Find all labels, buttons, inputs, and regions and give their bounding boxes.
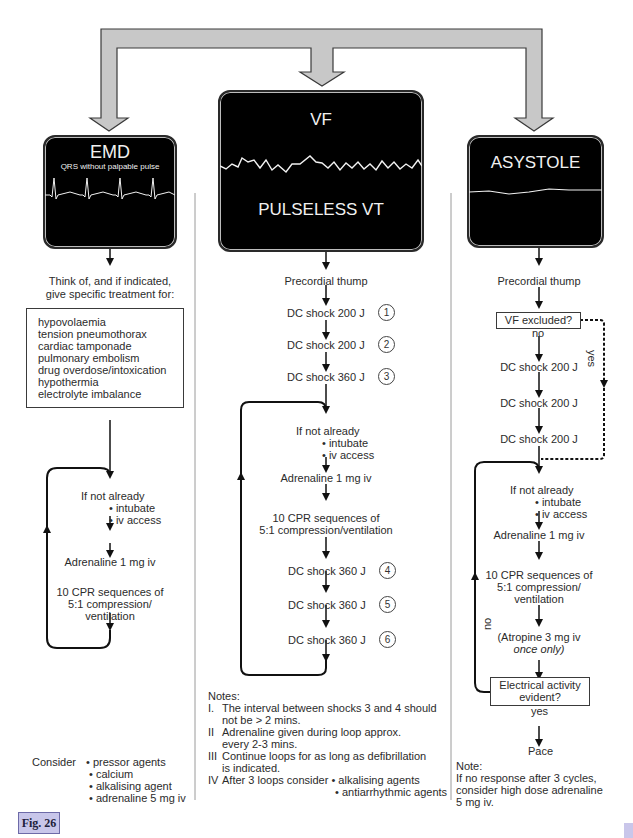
shock-number-5: 5	[379, 596, 396, 613]
page-edge-tab	[624, 823, 633, 838]
emd-monitor: EMD QRS without palpable pulse	[43, 135, 177, 249]
asystole-shock-1: DC shock 200 J	[489, 361, 589, 374]
note-number: IV	[208, 774, 218, 787]
emd-adrenaline: Adrenaline 1 mg iv	[55, 556, 165, 569]
vf-shock-6: DC shock 360 J	[288, 634, 366, 647]
pace: Pace	[528, 745, 553, 758]
asystole-iv-access: • iv access	[535, 508, 587, 521]
figure-label: Fig. 26	[18, 812, 60, 834]
shock-number-4: 4	[379, 562, 396, 579]
cardiac-arrest-algorithm: EMD QRS without palpable pulse VF PULSEL…	[0, 0, 633, 838]
shock-number-3: 3	[378, 368, 395, 385]
note-number: III	[208, 750, 217, 763]
electrical-activity-box: Electrical activity evident?	[490, 677, 590, 706]
asystole-shock-3: DC shock 200 J	[489, 433, 589, 446]
note-number: I.	[208, 702, 214, 715]
cause-item: electrolyte imbalance	[38, 388, 141, 401]
shock-number-6: 6	[379, 631, 396, 648]
vf-shock-4: DC shock 360 J	[288, 565, 366, 578]
emd-ecg-trace	[45, 175, 175, 205]
consider-item: • adrenaline 5 mg iv	[89, 792, 186, 805]
vf-shock-3: DC shock 360 J	[287, 371, 365, 384]
vf-shock-1: DC shock 200 J	[287, 307, 365, 320]
asystole-adrenaline: Adrenaline 1 mg iv	[484, 529, 594, 542]
atropine-once-only: once only)	[514, 643, 565, 655]
asystole-title: ASYSTOLE	[469, 153, 602, 173]
asystole-precordial-thump: Precordial thump	[479, 275, 599, 288]
asystole-flat-trace	[469, 182, 602, 202]
vf-subtitle: PULSELESS VT	[220, 200, 422, 220]
emd-iv-access: • iv access	[109, 514, 161, 527]
electrical-yes: yes	[531, 705, 548, 718]
vf-monitor: VF PULSELESS VT	[218, 90, 424, 252]
asystole-shock-2: DC shock 200 J	[489, 397, 589, 410]
emd-subtitle: QRS without palpable pulse	[45, 162, 175, 171]
note-number: II	[208, 726, 214, 739]
vf-excluded-label: VF excluded?	[497, 314, 580, 327]
emd-causes-box: hypovolaemia tension pneumothorax cardia…	[26, 308, 184, 408]
asystole-cpr-line3: ventilation	[479, 593, 599, 606]
shock-number-1: 1	[378, 304, 395, 321]
emd-consider-label: Consider	[32, 756, 76, 769]
asystole-monitor: ASYSTOLE	[467, 135, 604, 248]
vf-adrenaline: Adrenaline 1 mg iv	[266, 472, 386, 485]
note-line: • antiarrhythmic agents	[335, 786, 447, 799]
asystole-note-line: 5 mg iv.	[456, 796, 494, 809]
vf-excluded-no: no	[532, 327, 544, 340]
electrical-line2: evident?	[491, 691, 589, 704]
emd-title: EMD	[45, 142, 175, 163]
emd-cpr-line3: ventilation	[45, 610, 175, 623]
emd-think-of-line1: Think of, and if indicated,	[30, 275, 190, 288]
shock-number-2: 2	[378, 336, 395, 353]
atropine-line2: once only)	[484, 643, 594, 656]
vf-ecg-trace	[220, 152, 422, 178]
vf-shock-2: DC shock 200 J	[287, 339, 365, 352]
vf-shock-5: DC shock 360 J	[288, 599, 366, 612]
vf-iv-access: • iv access	[322, 449, 374, 462]
vf-precordial-thump: Precordial thump	[266, 275, 386, 288]
loop-no-label: no	[481, 618, 494, 630]
vf-title: VF	[220, 110, 422, 130]
emd-think-of-line2: give specific treatment for:	[30, 288, 190, 301]
vf-cpr-line2: 5:1 compression/ventilation	[246, 524, 406, 537]
